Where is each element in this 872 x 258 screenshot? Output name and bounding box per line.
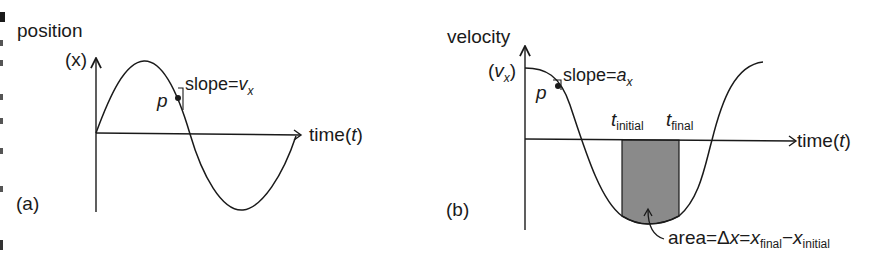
panel-a-x-axis-label: time(t) bbox=[309, 124, 363, 145]
panel-a-position-graph: position (x) p slope=vx time(t) (a) bbox=[16, 20, 363, 214]
panel-b-label: (b) bbox=[446, 199, 469, 220]
panel-b-slope-label: slope=ax bbox=[563, 65, 634, 89]
panel-b-shaded-area bbox=[622, 140, 679, 224]
panel-a-slope-label: slope=vx bbox=[185, 74, 255, 98]
panel-a-y-axis-label: position bbox=[17, 20, 83, 41]
panel-b-point-label: p bbox=[535, 82, 547, 103]
panel-b-t-initial-label: tinitial bbox=[611, 109, 644, 133]
panel-a-point-p bbox=[175, 95, 181, 101]
panel-b-x-axis bbox=[525, 139, 795, 141]
panel-a-x-axis bbox=[96, 133, 300, 135]
panel-b-y-axis-symbol: (vx) bbox=[488, 60, 516, 85]
panel-b-x-axis-label: time(t) bbox=[797, 130, 851, 151]
kinematics-diagram: position (x) p slope=vx time(t) (a) velo… bbox=[0, 0, 872, 258]
panel-b-area-formula: area=Δx=xfinal−xinitial bbox=[668, 227, 830, 251]
panel-a-point-label: p bbox=[156, 90, 168, 111]
panel-a-y-axis-symbol: (x) bbox=[65, 49, 87, 70]
panel-b-t-final-label: tfinal bbox=[666, 109, 693, 133]
left-edge-artifacts bbox=[0, 12, 5, 250]
panel-b-y-axis-label: velocity bbox=[447, 26, 511, 47]
panel-a-label: (a) bbox=[16, 193, 39, 214]
panel-b-velocity-graph: velocity (vx) p slope=ax tinitial tfinal… bbox=[446, 26, 851, 251]
panel-b-point-p bbox=[555, 83, 561, 89]
